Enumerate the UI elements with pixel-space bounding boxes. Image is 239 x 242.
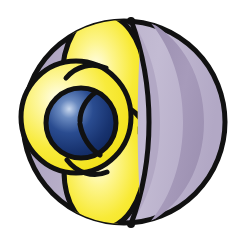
orbital-illustration-svg: Hybrid orbital lobes around a central at… [0, 0, 239, 242]
orbital-figure: Hybrid orbital lobes around a central at… [0, 0, 239, 242]
seam-top-cap [127, 17, 135, 25]
seam-bottom-cap [127, 220, 135, 228]
